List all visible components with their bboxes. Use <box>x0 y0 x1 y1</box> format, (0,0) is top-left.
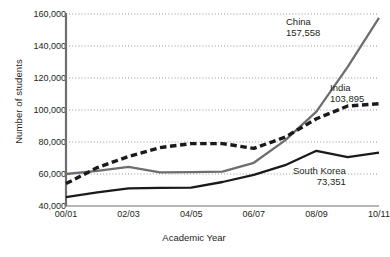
x-axis-title: Academic Year <box>0 232 388 243</box>
x-axis-tick-label: 10/11 <box>368 209 390 219</box>
series-label-south-korea-value: 73,351 <box>293 176 346 187</box>
x-axis-tick-label: 04/05 <box>180 209 203 219</box>
series-label-india-name: India <box>330 82 351 93</box>
x-axis-tick-label: 02/03 <box>117 209 140 219</box>
series-label-india-value: 103,895 <box>330 93 364 104</box>
series-label-china-name: China <box>286 16 311 27</box>
series-label-china-value: 157,558 <box>286 27 320 38</box>
series-label-china: China 157,558 <box>286 16 320 38</box>
x-axis-tick-label: 06/07 <box>243 209 266 219</box>
series-label-india: India 103,895 <box>330 82 364 104</box>
series-label-south-korea: South Korea 73,351 <box>293 165 346 187</box>
x-axis-tick-label: 08/09 <box>305 209 328 219</box>
x-axis-tick-label: 00/01 <box>55 209 78 219</box>
series-label-south-korea-name: South Korea <box>293 165 346 176</box>
